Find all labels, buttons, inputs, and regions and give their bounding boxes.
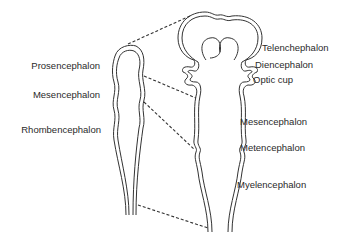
label-prosencephalon: Prosencephalon: [31, 61, 100, 71]
label-metencephalon: Metencephalon: [240, 143, 305, 153]
label-telencephalon: Telenchephalon: [262, 43, 329, 53]
early-neural-tube: [112, 45, 144, 215]
label-mesencephalon-early: Mesencephalon: [33, 90, 100, 100]
label-rhombencephalon: Rhombencephalon: [21, 125, 101, 135]
label-diencephalon: Diencephalon: [255, 60, 313, 70]
label-mesencephalon-late: Mesencephalon: [240, 117, 307, 127]
label-optic-cup: Optic cup: [253, 75, 293, 85]
brain-vesicles-diagram: Prosencephalon Mesencephalon Rhombenceph…: [0, 0, 350, 245]
label-myelencephalon: Myelencephalon: [237, 180, 306, 190]
